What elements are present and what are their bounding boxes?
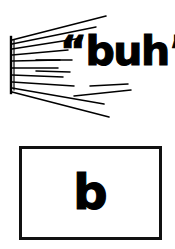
- grapheme-box: b: [19, 146, 162, 240]
- sound-ray-inner: [74, 90, 131, 96]
- sound-emanation-figure: “buh”: [0, 0, 175, 125]
- spoken-syllable-text: “buh”: [60, 22, 175, 84]
- sound-ray: [12, 75, 63, 77]
- sound-ray-inner: [90, 84, 128, 86]
- grapheme-letter: b: [22, 149, 159, 237]
